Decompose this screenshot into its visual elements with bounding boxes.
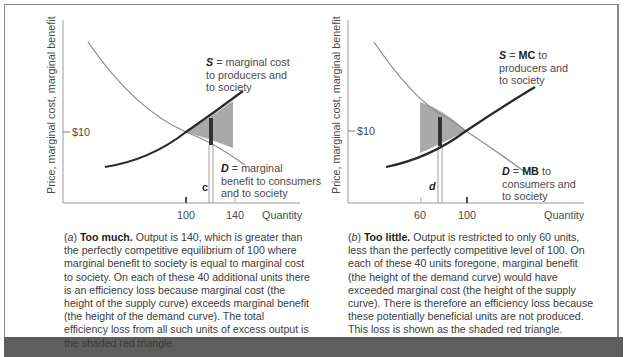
panel-b-x-axis-label: Quantity — [544, 209, 584, 222]
panel-a-x-tick-100: 100 — [177, 209, 195, 222]
panel-b-supply-mc: MC — [519, 49, 536, 61]
panel-a-demand-eq: = — [232, 162, 238, 174]
panel-a-x-axis-label: Quantity — [262, 209, 302, 222]
panel-b-demand-line2: consumers and — [502, 178, 576, 190]
panel-b-y-axis-label: Price, marginal cost, marginal benefit — [330, 16, 342, 194]
panel-b-price-tick-label: $10 — [357, 125, 375, 138]
panel-a-x-tick-140: 140 — [226, 209, 244, 222]
panel-b-supply-line2: producers and — [499, 62, 568, 74]
panel-a-demand-line3: and to society — [221, 187, 288, 199]
panel-a-caption: (a) Too much. Output is 140, which is gr… — [64, 231, 310, 350]
panel-b-caption-title: Too little. — [364, 231, 410, 243]
panel-a-unit-label: c — [202, 181, 208, 194]
panel-a-demand-label: D = marginal benefit to consumers and to… — [221, 162, 321, 200]
panel-b-supply-symbol: S — [499, 49, 506, 61]
panel-a-supply-eq: = — [216, 56, 222, 68]
panel-a-demand-line2: benefit to consumers — [221, 175, 321, 187]
panel-a-price-tick-label: $10 — [72, 126, 90, 139]
panel-b-x-tick-100: 100 — [458, 209, 476, 222]
panel-a-supply-line1: marginal cost — [226, 56, 290, 68]
panel-a-supply-symbol: S — [206, 56, 213, 68]
panel-b-supply-line3: to society — [499, 74, 545, 86]
panel-b-x-tick-60: 60 — [414, 209, 426, 222]
panel-b-supply-label: S = MC to producers and to society — [499, 49, 568, 87]
panel-b-demand-symbol: D — [502, 165, 510, 177]
panel-b-unit-label: d — [429, 180, 436, 193]
panel-a-supply-label: S = marginal cost to producers and to so… — [206, 56, 290, 94]
panel-b-demand-eq: = — [513, 165, 519, 177]
panel-b-caption-letter: b — [352, 231, 358, 243]
panel-b-demand-line3: to society — [502, 190, 548, 202]
panel-a-demand-line1: marginal — [241, 162, 282, 174]
panel-a-demand-symbol: D — [221, 162, 229, 174]
panel-b-demand-line1: to — [542, 165, 551, 177]
panel-a-caption-title: Too much. — [80, 231, 133, 243]
panel-b-demand-label: D = MB to consumers and to society — [502, 165, 576, 203]
panel-a-unit-bar — [209, 118, 213, 145]
panel-b-supply-eq: = — [509, 49, 515, 61]
panel-b-caption: (b) Too little. Output is restricted to … — [348, 231, 596, 337]
panel-b-demand-mb: MB — [522, 165, 539, 177]
panel-a-supply-line2: to producers and — [206, 69, 287, 81]
panel-a-caption-letter: a — [68, 231, 74, 243]
panel-b-unit-bar — [438, 117, 442, 146]
panel-b-caption-text: Output is restricted to only 60 units, l… — [348, 231, 593, 335]
panel-a-y-axis-label: Price, marginal cost, marginal benefit — [45, 16, 57, 194]
panel-a-caption-text: Output is 140, which is greater than the… — [64, 231, 310, 349]
panel-a-supply-line3: to society — [206, 81, 252, 93]
panel-b-supply-line1: to — [538, 49, 547, 61]
